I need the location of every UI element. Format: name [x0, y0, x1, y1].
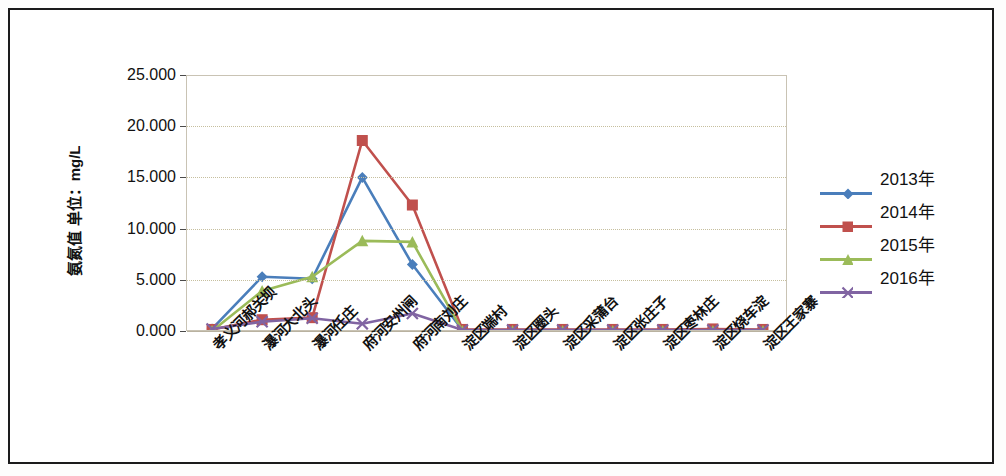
legend-item-label: 2015年: [880, 231, 935, 256]
data-point-marker: [357, 135, 368, 146]
y-axis-tickmark: [180, 331, 186, 332]
data-point-marker: [407, 200, 418, 211]
series-2014年: [207, 135, 769, 330]
legend-item-2016年[interactable]: 2016年: [820, 264, 990, 297]
y-axis-tick-label: 15.000: [76, 169, 176, 185]
gridline: [187, 126, 786, 127]
legend-item-2014年[interactable]: 2014年: [820, 198, 990, 231]
y-axis-tick-label: 25.000: [76, 67, 176, 83]
y-axis-tick-labels: 25.00020.00015.00010.0005.0000.000: [72, 0, 176, 476]
legend-marker-swatch: [840, 285, 853, 298]
y-axis-tickmark: [180, 126, 186, 127]
gridline: [187, 280, 786, 281]
legend-item-label: 2014年: [880, 198, 935, 223]
gridline: [187, 229, 786, 230]
legend-item-2015年[interactable]: 2015年: [820, 231, 990, 264]
legend-item-label: 2016年: [880, 264, 935, 289]
y-axis-tick-label: 5.000: [76, 272, 176, 288]
y-axis-tickmark: [180, 280, 186, 281]
legend-item-2013年[interactable]: 2013年: [820, 165, 990, 198]
chart-page: 氨氮值 单位：mg/L 25.00020.00015.00010.0005.00…: [0, 0, 1006, 476]
legend-item-label: 2013年: [880, 165, 935, 190]
y-axis-tick-label: 20.000: [76, 118, 176, 134]
y-axis-tickmark: [180, 75, 186, 76]
y-axis-tickmark: [180, 177, 186, 178]
y-axis-tickmark: [180, 229, 186, 230]
gridline: [187, 177, 786, 178]
line-chart: 氨氮值 单位：mg/L 25.00020.00015.00010.0005.00…: [0, 0, 1006, 476]
y-axis-tick-label: 0.000: [76, 323, 176, 339]
chart-legend: 2013年2014年2015年2016年: [820, 165, 990, 297]
data-point-marker: [843, 288, 854, 299]
y-axis-tick-label: 10.000: [76, 221, 176, 237]
